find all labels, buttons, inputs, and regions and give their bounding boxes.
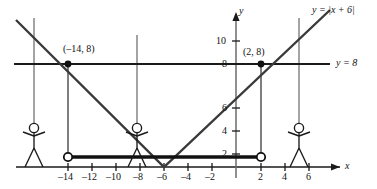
stick-figure-middle	[126, 123, 148, 167]
x-tick-label-neg10: –10	[106, 172, 121, 182]
x-tick-label-6: 6	[306, 172, 311, 182]
y-tick-label-6: 6	[222, 103, 227, 113]
solution-right-endpoint-open-circle	[257, 153, 265, 161]
y-tick-label-4: 4	[222, 126, 227, 136]
x-tick-label-neg8: –8	[133, 172, 143, 182]
y-tick-label-10: 10	[216, 36, 226, 46]
solution-left-endpoint-open-circle	[64, 153, 72, 161]
horizontal-line-label: y = 8	[336, 58, 357, 68]
stick-figure-left	[23, 123, 45, 167]
stick-figure-right	[288, 123, 310, 167]
coordinate-graph-figure	[0, 0, 377, 189]
y-tick-label-2: 2	[222, 149, 227, 159]
y-tick-label-8: 8	[222, 59, 227, 69]
y-axis-label: y	[239, 6, 243, 16]
x-tick-label-4: 4	[282, 172, 287, 182]
x-tick-label-neg14: –14	[58, 172, 73, 182]
x-axis-label: x	[345, 161, 349, 171]
x-tick-label-neg4: –4	[181, 172, 191, 182]
x-tick-label-neg2: –2	[205, 172, 215, 182]
x-tick-label-neg6: –6	[157, 172, 167, 182]
absolute-value-curve-label: y = |x + 6|	[312, 5, 355, 15]
left-intersection-label: (–14, 8)	[63, 44, 95, 54]
absolute-value-curve	[16, 10, 330, 167]
left-intersection-point	[65, 61, 72, 68]
x-tick-label-neg12: –12	[82, 172, 97, 182]
right-intersection-point	[258, 61, 265, 68]
right-intersection-label: (2, 8)	[243, 47, 265, 57]
x-tick-label-2: 2	[258, 172, 263, 182]
